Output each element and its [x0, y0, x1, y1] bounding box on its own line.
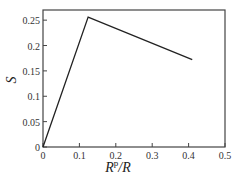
- data-series: [43, 17, 192, 147]
- x-tick-label: 0.5: [219, 150, 232, 161]
- x-tick-label: 0.4: [182, 150, 195, 161]
- y-tick-label: 0: [35, 142, 40, 153]
- line-chart: 00.10.20.30.40.500.050.10.150.20.25 S Rp…: [0, 0, 243, 181]
- x-axis-label: Rp/R: [104, 158, 131, 175]
- series-line: [43, 17, 192, 147]
- y-tick-label: 0.15: [23, 66, 41, 77]
- y-tick-label: 0.05: [23, 117, 41, 128]
- plot-border: [43, 10, 225, 147]
- y-tick-label: 0.2: [28, 41, 41, 52]
- x-tick-label: 0: [41, 150, 46, 161]
- plot-frame: [43, 10, 225, 147]
- axis-ticks: 00.10.20.30.40.500.050.10.150.20.25: [23, 15, 232, 161]
- y-tick-label: 0.1: [28, 91, 41, 102]
- x-tick-label: 0.3: [146, 150, 159, 161]
- x-tick-label: 0.1: [73, 150, 86, 161]
- y-tick-label: 0.25: [23, 15, 41, 26]
- y-axis-label: S: [4, 77, 19, 84]
